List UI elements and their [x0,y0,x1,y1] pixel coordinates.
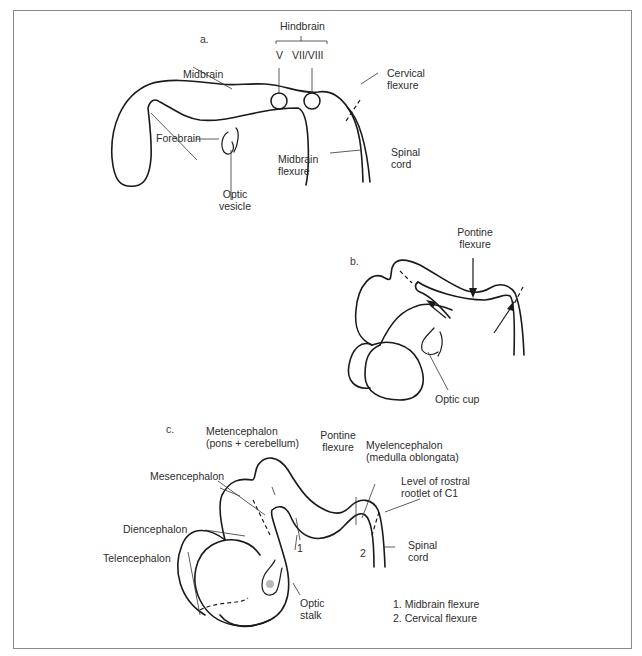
label-pontine-flexure-c: Pontine flexure [318,429,358,453]
label-nerve-v: V [276,49,283,61]
embryonic-brain-drawings [0,0,642,656]
label-hindbrain: Hindbrain [280,20,325,32]
marker-2: 2 [360,547,366,559]
legend-item-2: 2. Cervical flexure [393,611,479,625]
legend-item-1: 1. Midbrain flexure [393,597,479,611]
label-metencephalon: Metencephalon (pons + cerebellum) [206,425,299,449]
label-midbrain: Midbrain [183,68,223,80]
panel-c-label: c. [166,423,174,435]
marker-1: 1 [297,542,303,554]
label-cervical-flexure: Cervical flexure [387,67,425,91]
label-optic-stalk: Optic stalk [300,597,325,621]
label-spinal-cord-a: Spinal cord [391,146,420,170]
label-myelencephalon: Myelencephalon (medulla oblongata) [366,439,459,463]
panel-a-label: a. [200,33,209,45]
panel-b-label: b. [350,255,359,267]
legend: 1. Midbrain flexure 2. Cervical flexure [393,597,479,625]
label-spinal-cord-c: Spinal cord [408,539,437,563]
label-optic-vesicle: Optic vesicle [218,188,252,212]
label-nerve-vii-viii: VII/VIII [292,49,324,61]
label-midbrain-flexure: Midbrain flexure [278,153,318,177]
panel-b-drawing [348,258,524,400]
label-diencephalon: Diencephalon [123,523,187,535]
label-mesencephalon: Mesencephalon [150,470,224,482]
label-forebrain: Forebrain [156,132,201,144]
label-level-rostral-rootlet-c1: Level of rostral rootlet of C1 [401,475,470,499]
label-optic-cup: Optic cup [435,393,479,405]
label-telencephalon: Telencephalon [103,552,171,564]
label-pontine-flexure-b: Pontine flexure [455,226,495,250]
panel-a-drawing [112,36,378,200]
